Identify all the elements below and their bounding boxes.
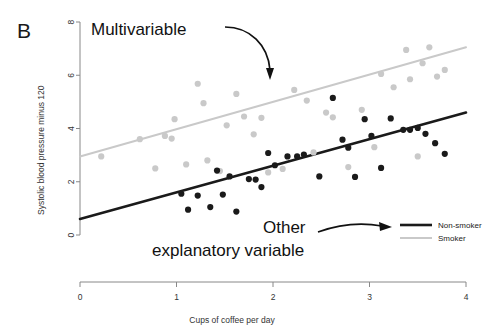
data-point-smoker [98, 153, 104, 159]
data-point-non-smoker [207, 204, 213, 210]
data-point-non-smoker [178, 191, 184, 197]
data-point-non-smoker [330, 95, 336, 101]
data-point-smoker [224, 122, 230, 128]
data-point-smoker [359, 107, 365, 113]
data-point-non-smoker [432, 140, 438, 146]
data-point-non-smoker [185, 207, 191, 213]
data-point-non-smoker [214, 167, 220, 173]
data-point-smoker [204, 157, 210, 163]
panel-label: B [17, 19, 31, 42]
data-point-non-smoker [301, 151, 307, 157]
data-point-smoker [251, 131, 257, 137]
data-point-smoker [403, 47, 409, 53]
data-point-non-smoker [272, 162, 278, 168]
data-point-smoker [407, 76, 413, 82]
data-point-non-smoker [233, 208, 239, 214]
data-point-smoker [391, 84, 397, 90]
y-tick-label: 6 [66, 73, 76, 78]
data-point-smoker [310, 149, 316, 155]
data-point-smoker [415, 153, 421, 159]
other-arrow-curve [318, 224, 382, 232]
data-point-non-smoker [442, 151, 448, 157]
data-point-smoker [434, 73, 440, 79]
data-point-smoker [426, 44, 432, 50]
data-point-smoker [442, 67, 448, 73]
data-point-smoker [169, 136, 175, 142]
data-point-non-smoker [294, 153, 300, 159]
data-point-non-smoker [352, 174, 358, 180]
y-tick-label: 2 [66, 179, 76, 184]
y-axis: 02468 [66, 19, 80, 237]
data-point-non-smoker [226, 173, 232, 179]
data-point-smoker [378, 71, 384, 77]
x-tick-label: 0 [78, 292, 83, 302]
data-point-smoker [233, 91, 239, 97]
multivariable-arrow-curve [225, 27, 270, 70]
data-point-smoker [291, 87, 297, 93]
y-tick-label: 0 [66, 232, 76, 237]
data-point-non-smoker [378, 165, 384, 171]
data-point-smoker [371, 144, 377, 150]
data-point-smoker [419, 60, 425, 66]
data-point-non-smoker [368, 133, 374, 139]
data-point-smoker [241, 113, 247, 119]
data-point-non-smoker [253, 177, 259, 183]
x-tick-label: 2 [271, 292, 276, 302]
legend: Non-smokerSmoker [400, 221, 482, 243]
x-axis: 01234 [78, 282, 469, 302]
figure-panel-b: B 02468 01234 Systolic blood pressure mi… [0, 0, 501, 332]
x-tick-label: 4 [464, 292, 469, 302]
x-tick-label: 3 [367, 292, 372, 302]
data-point-non-smoker [415, 125, 421, 131]
data-point-non-smoker [258, 184, 264, 190]
annotation-other-line1: Other [263, 218, 306, 237]
data-point-non-smoker [316, 173, 322, 179]
data-point-non-smoker [246, 176, 252, 182]
data-point-smoker [280, 166, 286, 172]
data-point-smoker [171, 116, 177, 122]
multivariable-arrow-head [266, 68, 274, 80]
legend-label-smoker: Smoker [438, 234, 466, 243]
data-point-non-smoker [407, 127, 413, 133]
other-arrow-head [379, 222, 392, 231]
y-tick-label: 8 [66, 19, 76, 24]
data-point-non-smoker [339, 137, 345, 143]
data-point-smoker [200, 100, 206, 106]
legend-label-non-smoker: Non-smoker [438, 221, 482, 230]
data-point-smoker [330, 114, 336, 120]
x-tick-label: 1 [174, 292, 179, 302]
data-point-smoker [152, 165, 158, 171]
data-point-non-smoker [388, 115, 394, 121]
y-axis-title: Systolic blood pressure minus 120 [36, 85, 46, 215]
data-point-smoker [323, 109, 329, 115]
data-point-smoker [265, 169, 271, 175]
annotation-multivariable: Multivariable [91, 20, 186, 39]
y-tick-label: 4 [66, 126, 76, 131]
annotation-other-line2: explanatory variable [152, 241, 304, 260]
data-point-non-smoker [265, 150, 271, 156]
data-point-non-smoker [362, 116, 368, 122]
data-point-smoker [195, 81, 201, 87]
data-point-smoker [258, 115, 264, 121]
scatter-plot: B 02468 01234 Systolic blood pressure mi… [0, 0, 501, 332]
data-point-non-smoker [345, 145, 351, 151]
data-point-non-smoker [195, 192, 201, 198]
data-point-smoker [304, 97, 310, 103]
data-point-non-smoker [220, 191, 226, 197]
regression-lines [80, 47, 466, 219]
x-axis-title: Cups of coffee per day [189, 315, 275, 325]
data-point-non-smoker [400, 127, 406, 133]
data-point-smoker [183, 161, 189, 167]
data-point-non-smoker [284, 153, 290, 159]
data-point-smoker [162, 133, 168, 139]
data-point-smoker [345, 164, 351, 170]
data-point-non-smoker [422, 131, 428, 137]
data-point-smoker [137, 136, 143, 142]
